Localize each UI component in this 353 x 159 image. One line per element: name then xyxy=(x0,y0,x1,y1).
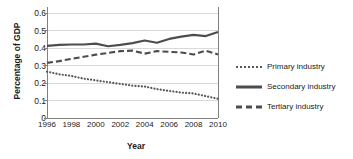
x-axis-title: Year xyxy=(52,141,220,151)
legend-label: Primary industry xyxy=(267,62,325,72)
series-line-2 xyxy=(47,32,218,46)
legend-swatch-solid-icon xyxy=(236,82,262,92)
x-tick-label: 2006 xyxy=(160,120,178,129)
x-tick-label: 2004 xyxy=(136,120,154,129)
legend-item[interactable]: Secondary industry xyxy=(236,77,353,97)
series-line-3 xyxy=(47,51,218,63)
legend-item[interactable]: Tertiary industry xyxy=(236,97,353,117)
legend-label: Tertiary industry xyxy=(267,102,323,112)
legend-swatch-dotted-icon xyxy=(236,62,262,72)
x-tick-label: 1996 xyxy=(38,120,56,129)
x-tick-label: 2010 xyxy=(209,120,227,129)
chart-legend: Primary industrySecondary industryTertia… xyxy=(236,57,353,117)
x-tick-label: 1998 xyxy=(63,120,81,129)
x-tick-label: 2008 xyxy=(185,120,203,129)
x-tick-label: 2000 xyxy=(87,120,105,129)
x-tick-label: 2002 xyxy=(111,120,129,129)
gdp-industry-line-chart: Percentage of GDP 00.10.20.30.40.50.6 19… xyxy=(0,0,353,159)
series-line-1 xyxy=(47,72,218,99)
legend-item[interactable]: Primary industry xyxy=(236,57,353,77)
legend-label: Secondary industry xyxy=(267,82,335,92)
legend-swatch-dashed-icon xyxy=(236,102,262,112)
